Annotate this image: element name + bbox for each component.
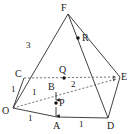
point-dot-P bbox=[54, 101, 57, 104]
vertex-label-C: C bbox=[15, 68, 22, 79]
length-label-AD: 1 bbox=[79, 119, 84, 129]
length-label-OB: 1 bbox=[32, 87, 37, 97]
length-label-OC: 1 bbox=[11, 84, 16, 94]
vertex-label-B: B bbox=[48, 81, 55, 92]
vertex-label-R: R bbox=[82, 32, 89, 43]
length-label-OF: 3 bbox=[26, 40, 31, 50]
edge-C-E-dashed bbox=[24, 77, 116, 78]
edge-E-D bbox=[108, 77, 120, 118]
vertex-label-E: E bbox=[121, 71, 127, 82]
vertex-label-A: A bbox=[53, 120, 61, 131]
edge-A-D bbox=[57, 117, 108, 118]
edge-O-A bbox=[13, 108, 57, 117]
edge-F-E bbox=[68, 14, 120, 77]
geometry-figure: F C E O D A B P Q R 3 1 1 1 1 2 bbox=[0, 0, 130, 134]
vertex-label-F: F bbox=[61, 2, 67, 13]
length-label-QE: 2 bbox=[71, 79, 76, 89]
edge-O-F bbox=[13, 14, 68, 108]
length-label-OA: 1 bbox=[28, 113, 33, 123]
vertex-label-D: D bbox=[107, 120, 114, 131]
point-dot-Q bbox=[62, 76, 65, 79]
vertex-label-O: O bbox=[2, 105, 9, 116]
vertex-label-Q: Q bbox=[59, 64, 67, 75]
geometry-canvas: F C E O D A B P Q R 3 1 1 1 1 2 bbox=[0, 0, 130, 134]
point-dot-R bbox=[76, 36, 79, 39]
vertex-label-P: P bbox=[59, 97, 65, 108]
vertex-label-group: F C E O D A B P Q R bbox=[2, 2, 127, 131]
edge-F-D bbox=[68, 14, 108, 118]
solid-edge-group bbox=[13, 14, 120, 118]
